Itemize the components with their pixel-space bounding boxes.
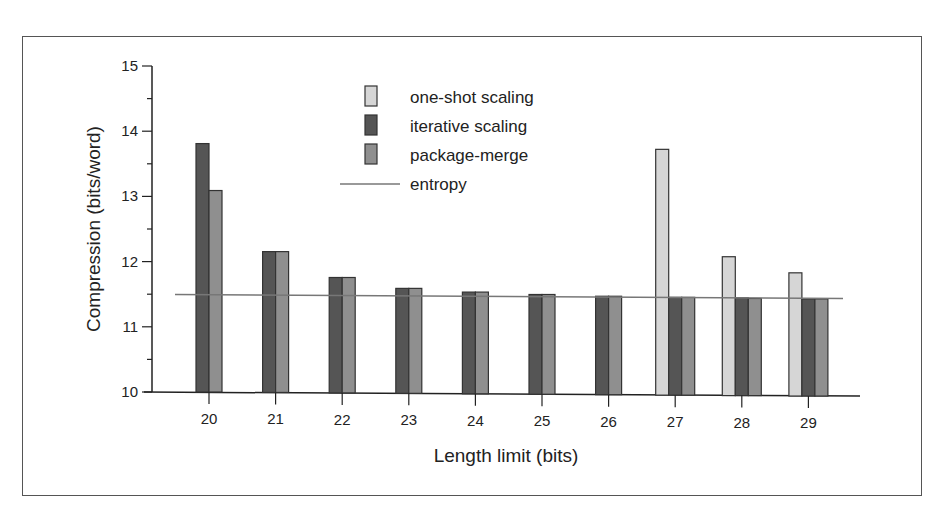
- bar-package-merge-28: [748, 298, 761, 395]
- bar-iterative-scaling-20: [196, 144, 209, 392]
- bar-one-shot-scaling-27: [656, 149, 669, 395]
- bar-package-merge-25: [542, 294, 555, 394]
- bar-package-merge-27: [682, 297, 695, 395]
- bar-iterative-scaling-28: [735, 298, 748, 396]
- bar-iterative-scaling-27: [669, 297, 682, 395]
- bar-iterative-scaling-29: [802, 299, 815, 396]
- x-tick-label: 25: [534, 412, 551, 429]
- bar-iterative-scaling-23: [396, 288, 409, 393]
- x-tick-label: 21: [267, 410, 284, 427]
- y-tick-label: 11: [122, 318, 138, 335]
- bar-chart: 10111213141520212223242526272829Length l…: [0, 0, 938, 514]
- bar-package-merge-26: [609, 296, 622, 394]
- x-tick-label: 23: [400, 411, 417, 428]
- bar-iterative-scaling-24: [462, 292, 475, 394]
- y-axis-title: Compression (bits/word): [83, 126, 104, 332]
- bar-iterative-scaling-21: [263, 252, 276, 393]
- legend-label-package-merge: package-merge: [410, 146, 528, 165]
- bar-one-shot-scaling-29: [789, 273, 802, 396]
- x-axis-title: Length limit (bits): [434, 445, 579, 466]
- y-tick-label: 10: [121, 383, 138, 400]
- x-tick-label: 24: [467, 412, 484, 429]
- legend-swatch-package-merge: [365, 144, 377, 164]
- y-tick-label: 15: [121, 57, 138, 74]
- legend-label-entropy: entropy: [410, 175, 467, 194]
- bar-package-merge-23: [409, 288, 422, 393]
- y-tick-label: 12: [121, 253, 138, 270]
- bar-iterative-scaling-25: [529, 294, 542, 394]
- x-tick-label: 20: [201, 410, 218, 427]
- x-tick-label: 27: [667, 413, 684, 430]
- legend-swatch-iterative-scaling: [365, 115, 377, 135]
- x-tick-label: 28: [733, 414, 750, 431]
- x-tick-label: 26: [600, 413, 617, 430]
- bar-package-merge-24: [475, 292, 488, 394]
- bar-package-merge-29: [815, 299, 828, 396]
- legend-label-iterative-scaling: iterative scaling: [410, 117, 527, 136]
- bar-one-shot-scaling-28: [722, 257, 735, 396]
- y-tick-label: 13: [121, 187, 138, 204]
- x-tick-label: 29: [800, 414, 817, 431]
- legend-swatch-one-shot-scaling: [365, 86, 377, 106]
- bar-package-merge-21: [276, 252, 289, 393]
- x-tick-label: 22: [334, 411, 351, 428]
- bar-iterative-scaling-26: [596, 296, 609, 394]
- bar-package-merge-20: [209, 191, 222, 392]
- legend-label-one-shot-scaling: one-shot scaling: [410, 88, 534, 107]
- y-tick-label: 14: [121, 122, 138, 139]
